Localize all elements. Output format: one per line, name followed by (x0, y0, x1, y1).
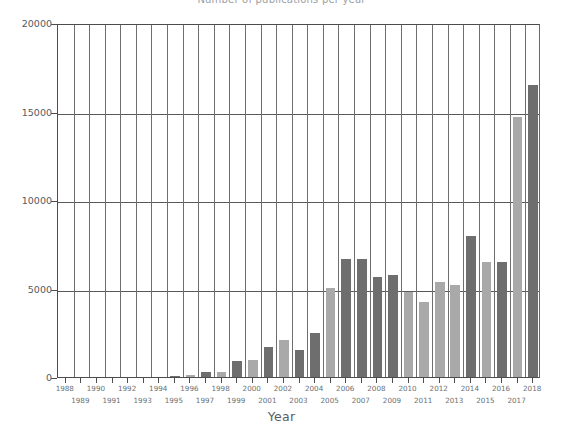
x-tick-label-1990: 1990 (81, 385, 111, 393)
x-tick-mark (158, 378, 159, 383)
x-tick-mark (485, 378, 486, 383)
gridline-horizontal (58, 202, 539, 203)
gridline-vertical (354, 25, 355, 377)
bar-2006 (341, 259, 351, 377)
x-tick-label-2008: 2008 (361, 385, 391, 393)
y-tick-label: 0 (46, 373, 52, 382)
x-tick-mark (470, 378, 471, 383)
x-tick-mark (174, 378, 175, 383)
gridline-vertical (323, 25, 324, 377)
bar-2003 (295, 350, 305, 377)
x-tick-label-2015: 2015 (470, 397, 500, 405)
gridline-vertical (183, 25, 184, 377)
x-tick-mark (127, 378, 128, 383)
x-tick-mark (205, 378, 206, 383)
bar-2009 (388, 275, 398, 377)
bar-2007 (357, 259, 367, 377)
gridline-vertical (120, 25, 121, 377)
x-tick-label-2014: 2014 (455, 385, 485, 393)
x-tick-label-2007: 2007 (346, 397, 376, 405)
bar-1995 (170, 376, 180, 377)
x-tick-mark (501, 378, 502, 383)
bar-2012 (435, 282, 445, 377)
x-tick-mark (517, 378, 518, 383)
y-tick-label: 20000 (22, 19, 52, 28)
x-tick-label-1995: 1995 (159, 397, 189, 405)
x-tick-label-1996: 1996 (174, 385, 204, 393)
gridline-vertical (198, 25, 199, 377)
x-tick-mark (80, 378, 81, 383)
bar-2010 (404, 292, 414, 377)
x-tick-label-1997: 1997 (190, 397, 220, 405)
bar-2018 (528, 85, 538, 377)
bar-2002 (279, 340, 289, 377)
bar-2000 (248, 360, 258, 377)
x-tick-mark (454, 378, 455, 383)
gridline-vertical (261, 25, 262, 377)
x-tick-mark (408, 378, 409, 383)
x-axis-title: Year (0, 409, 563, 424)
x-tick-label-2017: 2017 (502, 397, 532, 405)
bar-2005 (326, 288, 336, 377)
x-tick-mark (330, 378, 331, 383)
x-tick-mark (236, 378, 237, 383)
x-tick-mark (189, 378, 190, 383)
x-tick-mark (65, 378, 66, 383)
x-tick-label-2001: 2001 (252, 397, 282, 405)
x-tick-label-1994: 1994 (143, 385, 173, 393)
x-tick-mark (423, 378, 424, 383)
x-tick-mark (299, 378, 300, 383)
gridline-horizontal (58, 114, 539, 115)
x-tick-label-1988: 1988 (50, 385, 80, 393)
y-tick-label: 15000 (22, 108, 52, 117)
bar-2014 (466, 236, 476, 377)
gridline-vertical (136, 25, 137, 377)
bar-1998 (217, 372, 227, 377)
gridline-vertical (416, 25, 417, 377)
x-tick-label-2010: 2010 (393, 385, 423, 393)
x-tick-mark (252, 378, 253, 383)
gridline-vertical (292, 25, 293, 377)
x-tick-label-1993: 1993 (128, 397, 158, 405)
bar-1997 (201, 372, 211, 377)
x-tick-mark (112, 378, 113, 383)
bar-2013 (450, 285, 460, 377)
gridline-vertical (525, 25, 526, 377)
x-tick-mark (143, 378, 144, 383)
plot-area (57, 24, 540, 378)
x-tick-label-2016: 2016 (486, 385, 516, 393)
x-tick-label-2000: 2000 (237, 385, 267, 393)
bar-2015 (482, 262, 492, 377)
x-tick-label-2002: 2002 (268, 385, 298, 393)
gridline-vertical (307, 25, 308, 377)
publications-per-year-bar-chart: Number of publications per year 05000100… (0, 0, 563, 436)
bar-1999 (232, 361, 242, 377)
x-tick-mark (392, 378, 393, 383)
y-tick-label: 5000 (28, 285, 52, 294)
x-tick-label-2005: 2005 (315, 397, 345, 405)
bar-2016 (497, 262, 507, 377)
gridline-vertical (385, 25, 386, 377)
gridline-vertical (89, 25, 90, 377)
x-tick-mark (283, 378, 284, 383)
x-tick-mark (96, 378, 97, 383)
bar-1996 (186, 375, 196, 377)
gridline-vertical (167, 25, 168, 377)
x-tick-mark (361, 378, 362, 383)
x-tick-mark (314, 378, 315, 383)
gridline-vertical (432, 25, 433, 377)
gridline-vertical (229, 25, 230, 377)
x-tick-mark (221, 378, 222, 383)
x-tick-mark (345, 378, 346, 383)
gridline-vertical (401, 25, 402, 377)
x-tick-label-2003: 2003 (284, 397, 314, 405)
x-tick-label-2009: 2009 (377, 397, 407, 405)
gridline-vertical (245, 25, 246, 377)
x-tick-mark (532, 378, 533, 383)
x-tick-label-2013: 2013 (439, 397, 469, 405)
gridline-vertical (276, 25, 277, 377)
x-tick-mark (439, 378, 440, 383)
gridline-vertical (74, 25, 75, 377)
x-tick-label-1999: 1999 (221, 397, 251, 405)
bar-2001 (264, 347, 274, 377)
